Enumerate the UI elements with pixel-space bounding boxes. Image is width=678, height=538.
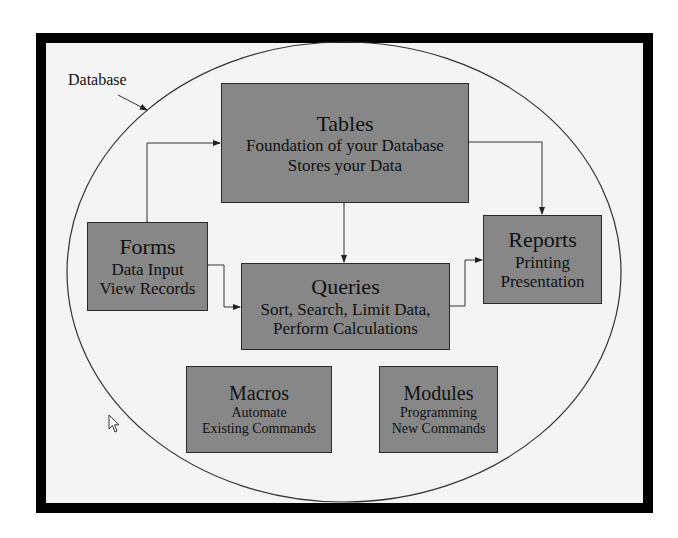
mouse-cursor-icon xyxy=(108,414,122,434)
node-queries-line-1: Sort, Search, Limit Data, xyxy=(261,300,431,320)
node-modules-line-1: Programming xyxy=(400,405,477,421)
node-reports-line-2: Presentation xyxy=(500,272,584,292)
node-macros: Macros Automate Existing Commands xyxy=(186,366,332,453)
edge-queries-reports xyxy=(449,260,482,306)
node-forms: Forms Data Input View Records xyxy=(87,222,208,311)
node-forms-title: Forms xyxy=(119,234,175,259)
node-tables: Tables Foundation of your Database Store… xyxy=(221,83,469,203)
node-modules: Modules Programming New Commands xyxy=(379,366,498,453)
node-reports: Reports Printing Presentation xyxy=(483,215,602,304)
node-macros-line-1: Automate xyxy=(231,405,286,421)
node-reports-title: Reports xyxy=(508,227,576,252)
edge-forms-queries xyxy=(208,265,240,307)
node-queries: Queries Sort, Search, Limit Data, Perfor… xyxy=(241,263,450,350)
node-forms-line-1: Data Input xyxy=(111,260,183,280)
node-macros-line-2: Existing Commands xyxy=(202,421,316,437)
edge-tables-forms xyxy=(147,143,220,221)
node-tables-line-1: Foundation of your Database xyxy=(246,136,444,156)
node-queries-title: Queries xyxy=(311,274,379,299)
node-modules-line-2: New Commands xyxy=(392,421,486,437)
node-tables-line-2: Stores your Data xyxy=(288,156,402,176)
node-modules-title: Modules xyxy=(404,382,474,405)
node-reports-line-1: Printing xyxy=(515,253,570,273)
node-forms-line-2: View Records xyxy=(100,279,196,299)
database-pointer-arrow xyxy=(118,95,147,110)
database-label: Database xyxy=(68,71,127,89)
node-macros-title: Macros xyxy=(229,382,289,405)
node-tables-title: Tables xyxy=(316,111,373,136)
edge-tables-reports xyxy=(468,142,542,214)
node-queries-line-2: Perform Calculations xyxy=(273,319,418,339)
